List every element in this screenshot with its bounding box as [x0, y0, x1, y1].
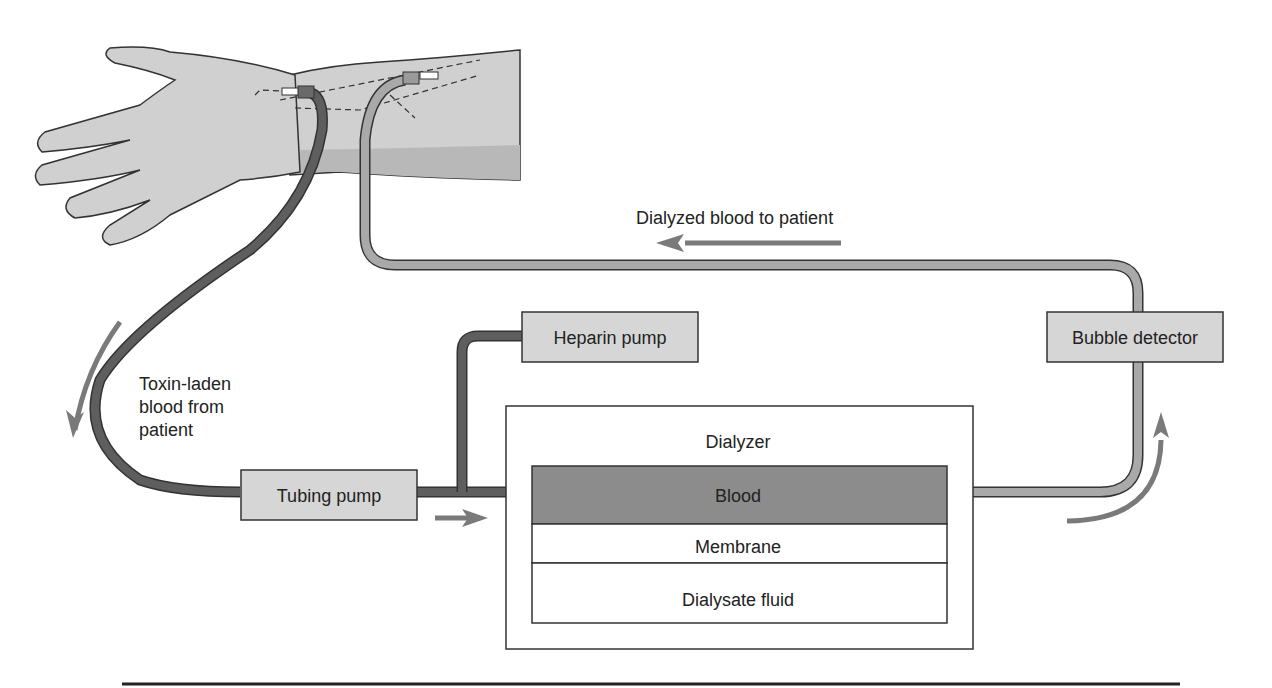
toxin-label-line2: blood from	[139, 397, 224, 417]
arrow-up-to-detector	[1067, 412, 1169, 521]
forearm-shadow	[300, 145, 520, 180]
arrow-dialyzed-left	[656, 234, 841, 252]
toxin-label-line3: patient	[139, 420, 193, 440]
membrane-label: Membrane	[695, 537, 781, 557]
needle-arterial	[282, 88, 300, 95]
dialyzer-outflow-tube	[972, 362, 1138, 492]
arterial-connector	[298, 86, 314, 98]
dialyzed-blood-label: Dialyzed blood to patient	[636, 208, 833, 228]
venous-connector	[403, 72, 419, 84]
dialysate-label: Dialysate fluid	[682, 590, 794, 610]
hand	[35, 47, 300, 245]
blood-label: Blood	[715, 486, 761, 506]
arrow-flow-right	[435, 509, 488, 527]
dialysis-diagram: Heparin pump Bubble detector Tubing pump…	[0, 0, 1272, 688]
toxin-label-line1: Toxin-laden	[139, 374, 231, 394]
tubing-pump-label: Tubing pump	[277, 486, 381, 506]
bubble-detector-label: Bubble detector	[1072, 328, 1198, 348]
needle-venous	[420, 72, 438, 79]
dialyzer-label: Dialyzer	[705, 432, 770, 452]
heparin-pump-label: Heparin pump	[553, 328, 666, 348]
